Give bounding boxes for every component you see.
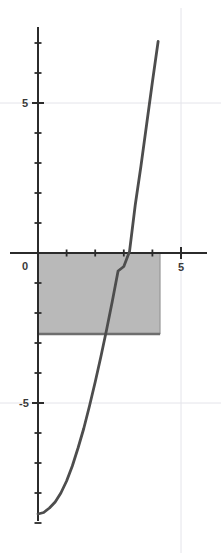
- y-tick-label-minus-5: -5: [19, 397, 29, 409]
- y-tick-label-5: 5: [22, 97, 28, 109]
- chart-canvas: 055-5: [0, 0, 221, 553]
- function-plot: 055-5: [0, 0, 221, 553]
- riemann-rectangle: [38, 253, 160, 334]
- x-tick-label-0: 0: [22, 260, 28, 272]
- shaded-region-group: [38, 253, 160, 334]
- x-tick-label-5: 5: [178, 261, 184, 273]
